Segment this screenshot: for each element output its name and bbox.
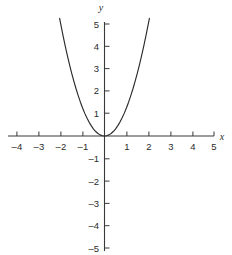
x-tick-label: 1 [124, 141, 129, 152]
x-tick-label: –3 [34, 141, 45, 152]
x-tick-label: 2 [146, 141, 151, 152]
x-tick-label: –4 [12, 141, 23, 152]
x-axis-label: x [219, 131, 225, 142]
x-tick-label: –2 [56, 141, 67, 152]
y-tick-label: –3 [88, 198, 99, 209]
x-tick-labels: –4 –3 –2 –1 1 2 3 4 5 [12, 141, 217, 152]
y-tick-label: 4 [94, 41, 99, 52]
y-tick-label: 5 [94, 19, 99, 30]
y-tick-label: –5 [88, 243, 99, 254]
x-tick-label: 3 [168, 141, 173, 152]
y-axis-label: y [98, 2, 104, 13]
x-tick-label: –1 [78, 141, 89, 152]
x-tick-label: 4 [190, 141, 195, 152]
x-axis-ticks [17, 132, 214, 137]
y-tick-label: 3 [94, 63, 99, 74]
y-tick-label: –1 [88, 153, 99, 164]
parabola-figure: –4 –3 –2 –1 1 2 3 4 5 5 4 3 2 1 –1 –2 –3… [0, 0, 232, 255]
y-tick-label: –4 [88, 220, 99, 231]
y-tick-label: 1 [94, 108, 99, 119]
x-tick-label: 5 [211, 141, 216, 152]
coordinate-plane: –4 –3 –2 –1 1 2 3 4 5 5 4 3 2 1 –1 –2 –3… [0, 0, 232, 255]
y-tick-label: 2 [94, 85, 99, 96]
y-tick-label: –2 [88, 176, 99, 187]
